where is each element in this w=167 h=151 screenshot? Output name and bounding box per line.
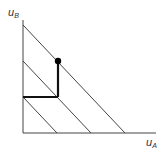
- frontier-line-outer: [23, 25, 125, 133]
- y-axis-label: uB: [8, 6, 19, 19]
- x-axis-label-sub: A: [151, 142, 157, 149]
- utility-diagram: uB uA: [0, 0, 167, 151]
- frontier-line-inner: [23, 97, 57, 133]
- allocation-point: [55, 58, 61, 64]
- x-axis-label: uA: [146, 136, 157, 149]
- y-axis-label-sub: B: [14, 12, 19, 19]
